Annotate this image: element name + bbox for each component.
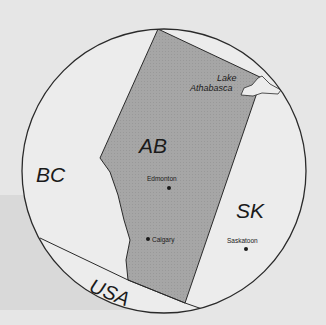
city-dot-calgary[interactable] xyxy=(146,237,150,241)
label-saskatoon: Saskatoon xyxy=(227,237,258,244)
label-calgary: Calgary xyxy=(152,236,175,244)
label-edmonton: Edmonton xyxy=(147,175,177,182)
label-bc: BC xyxy=(36,163,66,186)
label-lake-line2: Athabasca xyxy=(189,83,233,93)
label-ab: AB xyxy=(137,134,167,157)
city-dot-edmonton[interactable] xyxy=(167,186,171,190)
label-sk: SK xyxy=(236,199,265,222)
city-dot-saskatoon[interactable] xyxy=(244,247,248,251)
label-lake-line1: Lake xyxy=(217,73,237,83)
province-map: AB BC SK USA Lake Athabasca Edmonton Cal… xyxy=(0,0,326,325)
